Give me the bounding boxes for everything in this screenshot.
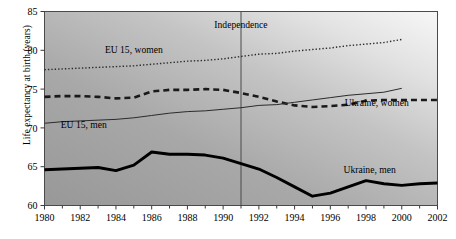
x-tick-label: 1980	[35, 212, 55, 223]
y-tick-label: 75	[28, 84, 38, 95]
x-tick-label: 1982	[70, 212, 90, 223]
x-tick-label: 1988	[177, 212, 197, 223]
x-tick-label: 1986	[142, 212, 162, 223]
x-tick-label: 1998	[356, 212, 376, 223]
x-tick-label: 1992	[249, 212, 269, 223]
y-tick-label: 60	[28, 200, 38, 211]
x-tick-label: 1996	[320, 212, 340, 223]
x-tick-label: 2002	[428, 212, 448, 223]
y-axis-ticks: 606570758085	[28, 6, 45, 211]
x-tick-label: 1984	[106, 212, 126, 223]
series-label: Ukraine, women	[345, 97, 409, 108]
y-tick-label: 80	[28, 45, 38, 56]
y-tick-label: 65	[28, 161, 38, 172]
y-tick-label: 85	[28, 6, 38, 17]
x-tick-label: 2000	[392, 212, 412, 223]
life-expectancy-chart: Life expectancy at birth (years) 6065707…	[0, 0, 456, 239]
independence-label: Independence	[214, 19, 267, 30]
series-label: EU 15, women	[105, 44, 163, 55]
x-tick-label: 1994	[285, 212, 305, 223]
x-axis-ticks: 1980198219841986198819901992199419961998…	[35, 206, 448, 224]
series-label: Ukraine, men	[344, 164, 396, 175]
series-label: EU 15, men	[61, 119, 107, 130]
y-tick-label: 70	[28, 123, 38, 134]
chart-plot-area: 606570758085 198019821984198619881990199…	[0, 0, 456, 239]
x-tick-label: 1990	[213, 212, 233, 223]
